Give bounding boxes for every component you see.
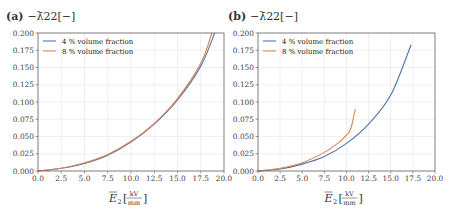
y-tick-label: 0.175 xyxy=(233,46,254,55)
y-tick-label: 0.125 xyxy=(233,80,254,89)
y-tick-label: 0.075 xyxy=(233,115,254,124)
x-tick-label: 5.0 xyxy=(79,174,91,183)
y-tick-label: 0.050 xyxy=(233,132,254,141)
legend-label: 4 % volume fraction xyxy=(282,38,354,46)
panel-b: (b) −λ̄22[−]0.02.55.07.510.012.515.017.5… xyxy=(228,10,444,207)
svg-text:kV: kV xyxy=(130,190,139,198)
y-tick-label: 0.000 xyxy=(13,167,34,176)
x-tick-label: 10.0 xyxy=(123,174,140,183)
series-line xyxy=(258,45,411,171)
legend: 4 % volume fraction8 % volume fraction xyxy=(43,38,134,56)
svg-text:[: [ xyxy=(339,192,343,205)
x-tick-label: 2.5 xyxy=(274,174,286,183)
y-tick-label: 0.150 xyxy=(13,63,34,72)
y-tick-label: 0.125 xyxy=(13,80,34,89)
svg-text:kV: kV xyxy=(345,190,354,198)
svg-text:[: [ xyxy=(123,192,127,205)
svg-text:2: 2 xyxy=(333,198,337,206)
x-tick-label: 15.0 xyxy=(169,174,186,183)
svg-text:mm: mm xyxy=(343,199,355,207)
x-tick-label: 2.5 xyxy=(55,174,67,183)
legend-label: 4 % volume fraction xyxy=(62,38,134,46)
panel-a: (a) −λ̄22[−]0.02.55.07.510.012.515.017.5… xyxy=(6,10,233,207)
legend: 4 % volume fraction8 % volume fraction xyxy=(263,38,354,56)
svg-text:2: 2 xyxy=(118,198,122,206)
series-line xyxy=(258,109,355,171)
y-tick-label: 0.175 xyxy=(13,46,34,55)
x-tick-label: 20.0 xyxy=(216,174,233,183)
svg-text:]: ] xyxy=(359,192,363,205)
legend-label: 8 % volume fraction xyxy=(282,48,354,56)
x-tick-label: 17.5 xyxy=(405,174,422,183)
svg-text:E: E xyxy=(324,192,333,205)
y-tick-label: 0.000 xyxy=(233,167,254,176)
y-tick-label: 0.100 xyxy=(13,98,34,107)
panel-title: (b) −λ̄22[−] xyxy=(228,10,298,23)
x-tick-label: 7.5 xyxy=(102,174,114,183)
y-tick-label: 0.100 xyxy=(233,98,254,107)
y-tick-label: 0.025 xyxy=(13,149,34,158)
x-tick-label: 12.5 xyxy=(146,174,163,183)
figure: (a) −λ̄22[−]0.02.55.07.510.012.515.017.5… xyxy=(0,0,453,216)
x-tick-label: 10.0 xyxy=(338,174,355,183)
svg-text:E: E xyxy=(108,192,117,205)
y-tick-label: 0.200 xyxy=(233,29,254,38)
svg-text:mm: mm xyxy=(128,199,140,207)
y-tick-label: 0.050 xyxy=(13,132,34,141)
svg-text:]: ] xyxy=(143,192,147,205)
panel-title: (a) −λ̄22[−] xyxy=(6,10,75,23)
x-tick-label: 20.0 xyxy=(427,174,444,183)
x-tick-label: 17.5 xyxy=(193,174,210,183)
x-axis-label: E2[kVmm] xyxy=(108,190,147,207)
x-tick-label: 15.0 xyxy=(383,174,400,183)
y-tick-label: 0.150 xyxy=(233,63,254,72)
x-tick-label: 7.5 xyxy=(318,174,330,183)
x-tick-label: 5.0 xyxy=(296,174,308,183)
y-tick-label: 0.025 xyxy=(233,149,254,158)
y-tick-label: 0.200 xyxy=(13,29,34,38)
y-tick-label: 0.075 xyxy=(13,115,34,124)
x-axis-label: E2[kVmm] xyxy=(324,190,363,207)
legend-label: 8 % volume fraction xyxy=(62,48,134,56)
x-tick-label: 12.5 xyxy=(360,174,377,183)
